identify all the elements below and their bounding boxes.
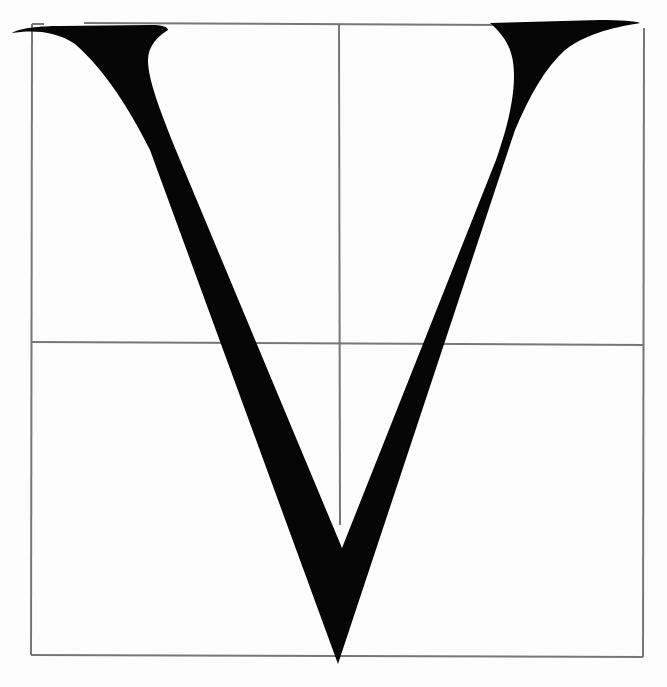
- grid-vertical-midline: [339, 24, 340, 525]
- grid-left-edge: [31, 24, 32, 655]
- grid-horizontal-midline: [32, 342, 644, 345]
- letter-specimen: [0, 0, 667, 687]
- grid-top-edge: [84, 23, 500, 25]
- grid-right-edge: [643, 28, 644, 657]
